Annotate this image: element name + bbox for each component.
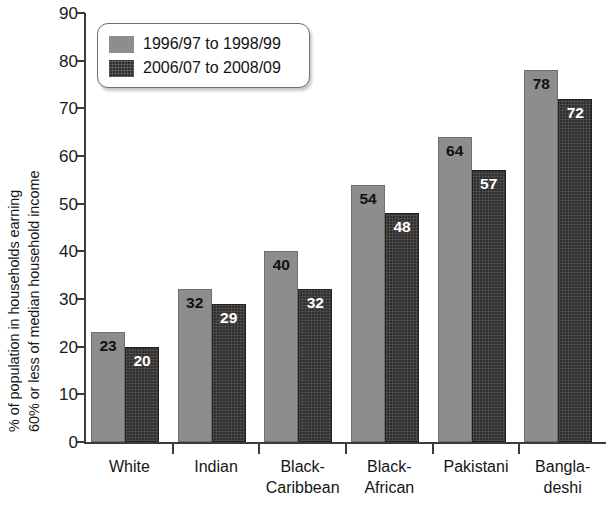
y-tick-mark <box>77 203 85 205</box>
y-tick-label: 60 <box>44 148 78 165</box>
legend: 1996/97 to 1998/99 2006/07 to 2008/09 <box>97 23 310 88</box>
x-tick-mark <box>518 444 520 454</box>
x-category-label: Indian <box>173 456 260 477</box>
bar-value-label: 57 <box>473 176 505 192</box>
x-category-label: Pakistani <box>433 456 520 477</box>
bar[interactable]: 32 <box>178 289 212 442</box>
bar-group: 6457 <box>438 13 506 442</box>
y-tick-mark <box>77 441 85 443</box>
y-tick-label: 20 <box>44 338 78 355</box>
bar[interactable]: 32 <box>298 289 332 442</box>
x-tick-mark <box>172 444 174 454</box>
x-category-label-line-2: deshi <box>519 477 606 498</box>
x-category-label-line-1: Bangla- <box>535 458 590 475</box>
bar-value-label: 54 <box>352 191 384 207</box>
x-category-label-line-2: Caribbean <box>259 477 346 498</box>
y-axis-title-line-1: % of population in households earning <box>6 2 22 432</box>
bar-value-label: 29 <box>213 310 245 326</box>
y-tick-label: 80 <box>44 52 78 69</box>
bar[interactable]: 57 <box>472 170 506 442</box>
legend-entry-1[interactable]: 2006/07 to 2008/09 <box>109 57 281 79</box>
y-axis-tick-labels: 0102030405060708090 <box>44 0 78 505</box>
legend-label-series-1: 1996/97 to 1998/99 <box>143 36 281 52</box>
bar[interactable]: 23 <box>91 332 125 442</box>
bar-value-label: 72 <box>559 105 591 121</box>
legend-swatch-series-2 <box>109 60 134 77</box>
x-tick-mark <box>345 444 347 454</box>
bar[interactable]: 40 <box>264 251 298 442</box>
y-axis-title-line-2: 60% or less of median household income <box>26 2 42 432</box>
bar[interactable]: 54 <box>351 185 385 442</box>
x-category-label-line-1: Indian <box>194 458 238 475</box>
x-category-label-line-1: Black- <box>280 458 324 475</box>
x-tick-mark <box>432 444 434 454</box>
y-tick-mark <box>77 107 85 109</box>
x-category-label: Black-Caribbean <box>259 456 346 498</box>
y-tick-mark <box>77 155 85 157</box>
y-tick-mark <box>77 12 85 14</box>
bar[interactable]: 20 <box>125 347 159 442</box>
bar-value-label: 32 <box>179 295 211 311</box>
x-tick-mark <box>258 444 260 454</box>
bar-chart: % of population in households earning 60… <box>0 0 612 505</box>
x-category-label: Black-African <box>346 456 433 498</box>
y-tick-label: 70 <box>44 100 78 117</box>
bar[interactable]: 64 <box>438 137 472 442</box>
bar-value-label: 48 <box>386 219 418 235</box>
bar[interactable]: 29 <box>212 304 246 442</box>
y-tick-mark <box>77 298 85 300</box>
y-tick-label: 90 <box>44 5 78 22</box>
x-category-label-line-1: Pakistani <box>444 458 509 475</box>
x-category-label-line-1: White <box>109 458 150 475</box>
legend-entry-0[interactable]: 1996/97 to 1998/99 <box>109 33 281 55</box>
bar-value-label: 64 <box>439 143 471 159</box>
bar[interactable]: 78 <box>524 70 558 442</box>
x-category-label-line-1: Black- <box>367 458 411 475</box>
y-tick-label: 40 <box>44 243 78 260</box>
y-tick-mark <box>77 60 85 62</box>
y-tick-mark <box>77 393 85 395</box>
legend-swatch-series-1 <box>109 36 134 53</box>
y-tick-label: 50 <box>44 195 78 212</box>
bar-value-label: 20 <box>126 353 158 369</box>
bar-group: 7872 <box>524 13 592 442</box>
y-tick-label: 10 <box>44 386 78 403</box>
bar[interactable]: 72 <box>558 99 592 442</box>
y-tick-mark <box>77 250 85 252</box>
x-category-label: White <box>86 456 173 477</box>
legend-label-series-2: 2006/07 to 2008/09 <box>143 60 281 76</box>
bar-value-label: 40 <box>265 257 297 273</box>
y-tick-label: 30 <box>44 291 78 308</box>
bar-value-label: 23 <box>92 338 124 354</box>
y-tick-label: 0 <box>44 434 78 451</box>
x-category-label: Bangla-deshi <box>519 456 606 498</box>
bar-value-label: 32 <box>299 295 331 311</box>
bar[interactable]: 48 <box>385 213 419 442</box>
bar-value-label: 78 <box>525 76 557 92</box>
y-tick-mark <box>77 346 85 348</box>
x-category-label-line-2: African <box>346 477 433 498</box>
bar-group: 5448 <box>351 13 419 442</box>
